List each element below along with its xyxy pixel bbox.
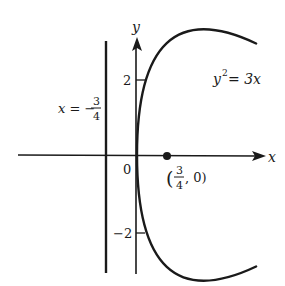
svg-text:= 3x: = 3x — [228, 71, 261, 87]
origin-label: 0 — [123, 162, 131, 177]
tick-label-y-2: 2 — [123, 73, 131, 88]
tick-label-y-neg2: −2 — [113, 226, 132, 241]
equation-label: y 2 = 3x — [212, 68, 261, 87]
x-axis-label: x — [268, 149, 276, 165]
svg-text:x = −: x = − — [58, 101, 95, 116]
focus-label: ( 3 4 , 0) — [166, 164, 207, 192]
svg-text:3: 3 — [176, 164, 183, 177]
focus-point — [163, 152, 171, 160]
svg-text:y: y — [212, 71, 222, 87]
svg-text:3: 3 — [93, 95, 100, 108]
y-axis-arrow-icon — [132, 37, 142, 51]
directrix-label: x = − 3 4 — [58, 95, 101, 123]
y-axis-label: y — [131, 19, 141, 35]
parabola-figure: x y 2 −2 0 x = − 3 4 y 2 = 3x ( 3 4 , 0) — [0, 0, 285, 286]
svg-text:4: 4 — [176, 179, 183, 192]
x-axis — [18, 151, 266, 161]
svg-text:, 0): , 0) — [185, 170, 207, 185]
svg-text:4: 4 — [93, 110, 100, 123]
svg-text:2: 2 — [222, 68, 228, 78]
svg-text:(: ( — [166, 167, 173, 189]
